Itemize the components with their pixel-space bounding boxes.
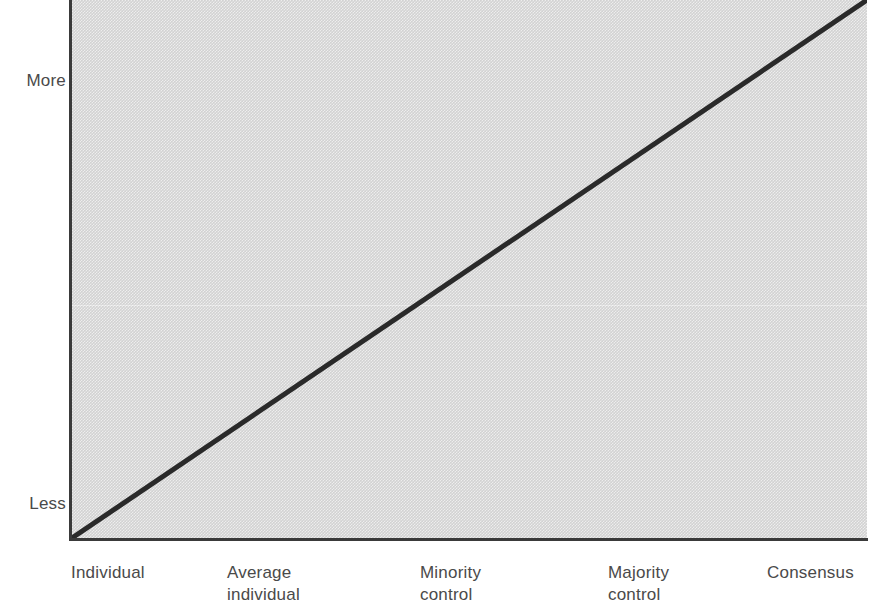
x-tick-line2: control	[420, 584, 481, 606]
x-tick-line1: Consensus	[767, 563, 854, 582]
x-axis-tick-individual: Individual	[71, 562, 145, 584]
x-tick-line1: Majority	[608, 563, 669, 582]
y-axis-spine	[69, 0, 72, 541]
x-tick-line1: Minority	[420, 563, 481, 582]
y-axis-label-more: More	[26, 71, 66, 91]
x-tick-line2: individual	[227, 584, 300, 606]
x-axis-tick-minority-control: Minority control	[420, 562, 481, 606]
y-axis-label-less: Less	[29, 494, 66, 514]
plot-area	[72, 0, 867, 538]
data-series-line	[72, 0, 867, 538]
x-axis-tick-average-individual: Average individual	[227, 562, 300, 606]
chart-figure: More Less Individual Average individual …	[0, 0, 878, 608]
series-line-segment	[72, 0, 867, 538]
x-axis-tick-majority-control: Majority control	[608, 562, 669, 606]
x-axis-spine	[69, 538, 868, 541]
x-tick-line2: control	[608, 584, 669, 606]
x-tick-line1: Individual	[71, 563, 145, 582]
x-tick-line1: Average	[227, 563, 291, 582]
x-axis-tick-consensus: Consensus	[767, 562, 854, 584]
